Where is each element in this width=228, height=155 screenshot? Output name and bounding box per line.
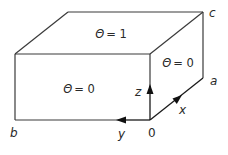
origin-label: 0 — [148, 126, 156, 140]
axes — [116, 78, 203, 124]
axis-label-x: x — [178, 103, 187, 117]
corner-label-a: a — [210, 74, 217, 88]
z-arrow-icon — [147, 84, 154, 94]
axis-label-y: y — [117, 127, 126, 141]
corner-label-c: c — [209, 6, 216, 20]
front-face-label: Θ= 0 — [63, 82, 95, 96]
corner-label-b: b — [10, 126, 18, 140]
axis-label-z: z — [134, 85, 142, 99]
top-face-label: Θ= 1 — [95, 27, 127, 41]
box-diagram: Θ= 1 Θ= 0 Θ= 0 c a b 0 z y x — [0, 0, 228, 155]
top-right-diagonal — [150, 12, 203, 54]
y-arrow-icon — [116, 117, 126, 124]
right-face-label: Θ= 0 — [162, 56, 194, 70]
top-left-diagonal — [15, 12, 68, 54]
